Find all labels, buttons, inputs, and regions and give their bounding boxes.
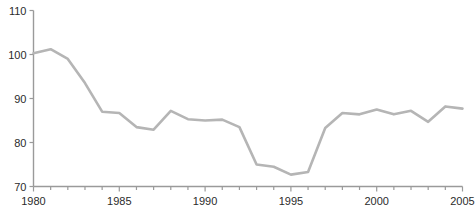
y-axis-tick-label: 100 bbox=[8, 49, 26, 61]
x-axis-tick-label: 1995 bbox=[279, 195, 303, 207]
x-axis-tick-label: 2000 bbox=[364, 195, 388, 207]
x-axis-tick-labels: 198019851990199520002005 bbox=[21, 195, 474, 207]
x-axis-tick-label: 1990 bbox=[193, 195, 217, 207]
chart-canvas: 708090100110 198019851990199520002005 bbox=[0, 0, 475, 209]
x-axis-tick-label: 2005 bbox=[450, 195, 474, 207]
axes-group bbox=[34, 11, 463, 187]
y-axis-tick-label: 70 bbox=[14, 181, 26, 193]
x-axis-ticks bbox=[34, 187, 463, 192]
data-series-group bbox=[34, 49, 463, 174]
line-chart: 708090100110 198019851990199520002005 bbox=[0, 0, 475, 209]
x-axis-tick-label: 1985 bbox=[107, 195, 131, 207]
data-line-series-1 bbox=[34, 49, 463, 174]
y-axis-tick-labels: 708090100110 bbox=[8, 5, 26, 193]
x-axis-tick-label: 1980 bbox=[21, 195, 45, 207]
y-axis-tick-label: 80 bbox=[14, 137, 26, 149]
y-axis-tick-label: 90 bbox=[14, 93, 26, 105]
y-axis-tick-label: 110 bbox=[9, 5, 27, 17]
